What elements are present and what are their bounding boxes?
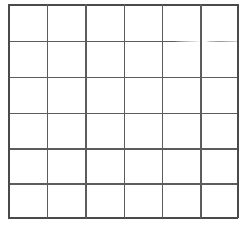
grid-cell[interactable] (124, 77, 162, 113)
grid-cell[interactable] (47, 4, 85, 41)
grid-cell[interactable] (200, 183, 237, 217)
grid-cell[interactable] (162, 4, 200, 41)
grid-cell[interactable] (124, 183, 162, 217)
grid-line-vertical-3 (124, 4, 125, 218)
grid-cell[interactable] (124, 41, 162, 77)
grid-cell[interactable] (200, 113, 237, 148)
grid-line-vertical-left (8, 4, 10, 218)
grid-cell[interactable] (85, 77, 123, 113)
grid-cell[interactable] (47, 113, 85, 148)
grid-cell[interactable] (200, 148, 237, 183)
grid-line-vertical-2 (85, 4, 86, 218)
grid-cell[interactable] (162, 41, 200, 77)
grid-cell[interactable] (8, 183, 47, 217)
grid-cell[interactable] (8, 113, 47, 148)
grid-cell[interactable] (47, 77, 85, 113)
grid-cell[interactable] (8, 77, 47, 113)
grid-cell[interactable] (162, 113, 200, 148)
grid-cell[interactable] (85, 41, 123, 77)
grid-cell[interactable] (85, 148, 123, 183)
grid-cell[interactable] (200, 41, 237, 77)
grid-cell[interactable] (124, 148, 162, 183)
grid-line-vertical-1 (47, 4, 48, 218)
grid-cell[interactable] (162, 183, 200, 217)
grid-cell[interactable] (47, 41, 85, 77)
grid-line-vertical-4 (162, 4, 163, 218)
grid-cell[interactable] (162, 148, 200, 183)
grid-cell[interactable] (200, 77, 237, 113)
grid-figure (8, 4, 238, 218)
grid-cell[interactable] (8, 4, 47, 41)
grid-line-vertical-5 (200, 4, 201, 218)
screenshot-root (0, 0, 247, 226)
grid-cell[interactable] (124, 113, 162, 148)
grid-line-vertical-right (237, 4, 239, 218)
grid-cell[interactable] (47, 148, 85, 183)
grid-cell[interactable] (200, 4, 237, 41)
grid-cell[interactable] (85, 113, 123, 148)
grid-cell[interactable] (85, 4, 123, 41)
grid-cell[interactable] (124, 4, 162, 41)
grid-cell[interactable] (8, 148, 47, 183)
grid-cell[interactable] (162, 77, 200, 113)
grid-cell[interactable] (85, 183, 123, 217)
grid-cell[interactable] (47, 183, 85, 217)
grid-cell[interactable] (8, 41, 47, 77)
